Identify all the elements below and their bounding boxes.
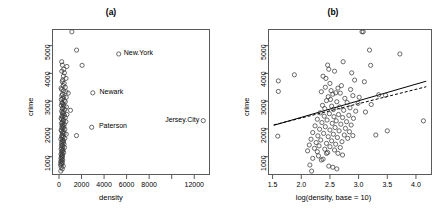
data-point [369,63,373,67]
data-point [311,156,315,160]
data-point [337,129,341,133]
point-annotation: Newark [99,88,123,95]
data-point [385,129,389,133]
data-point [336,151,340,155]
data-point [328,145,332,149]
y-tick-label: 2000 [44,127,51,143]
data-point [335,135,339,139]
data-point [354,109,358,113]
data-point [323,125,327,129]
data-point [362,80,366,84]
data-point [322,131,326,135]
data-point [341,60,345,64]
data-point [319,90,323,94]
data-point [398,52,402,56]
panel-a: (a) crime density 0200040006000800012000… [0,0,222,217]
data-point [308,163,312,167]
y-tick-label: 5000 [260,44,267,60]
data-point [292,73,296,77]
data-point [309,137,313,141]
data-point [315,117,319,121]
data-point [334,119,338,123]
data-point [327,112,331,116]
panel-b: (b) crime log(density, base = 10) 1.52.0… [222,0,444,217]
data-point [327,67,331,71]
data-point [336,86,340,90]
data-point [339,122,343,126]
data-point [276,134,280,138]
data-point [335,100,339,104]
data-point [333,125,337,129]
panel-a-y-axis-label: crime [26,98,35,116]
data-point [357,95,361,99]
data-point [349,123,353,127]
data-point [315,150,319,154]
data-point [331,132,335,136]
data-point [317,144,321,148]
data-point [338,91,342,95]
data-point [307,143,311,147]
y-tick-label: 2000 [260,127,267,143]
y-tick-label: 4000 [44,72,51,88]
data-point [321,74,325,78]
data-point [347,130,351,134]
point-annotation: Jersey.City [165,116,199,123]
data-point [316,154,320,158]
data-point [324,99,328,103]
data-point [322,114,326,118]
data-point [342,133,346,137]
x-tick-label: 4.0 [396,181,436,188]
data-point [343,96,347,100]
data-point [324,151,328,155]
data-point [74,48,78,52]
data-point [332,148,336,152]
panel-b-x-axis-label: log(density, base = 10) [222,193,445,202]
y-tick-label: 4000 [260,72,267,88]
data-point [68,108,72,112]
data-point [340,153,344,157]
data-point [328,81,332,85]
data-point [323,85,327,89]
data-point [326,63,330,67]
data-point [338,145,342,149]
data-point [369,102,373,106]
x-tick-label: 12000 [174,181,214,188]
data-point [328,97,332,101]
data-point [332,69,336,73]
data-point [325,118,329,122]
data-point [348,87,352,91]
data-point [74,133,78,137]
y-tick-label: 3000 [44,100,51,116]
data-point [276,79,280,83]
y-tick-label: 1000 [260,155,267,171]
data-point [201,118,205,122]
data-point [91,91,95,95]
data-point [327,164,331,168]
data-point [319,138,323,142]
point-annotation: New.York [124,49,153,56]
data-point [318,127,322,131]
data-point [65,64,69,68]
data-point [342,108,346,112]
data-point [421,119,425,123]
panel-a-x-axis-label: density [0,193,222,202]
data-point [351,116,355,120]
data-point [363,110,367,114]
data-point [320,120,324,124]
data-point [332,115,336,119]
data-point [331,165,335,169]
point-annotation: Paterson [99,122,127,129]
data-point [324,141,328,145]
data-point [305,149,309,153]
data-point [80,63,84,67]
data-point [70,30,74,34]
data-point [328,128,332,132]
data-point [330,139,334,143]
data-point [347,113,351,117]
data-point [340,140,344,144]
data-point [309,169,313,173]
data-point [340,115,344,119]
data-point [316,134,320,138]
x-tick-label: 8000 [129,181,169,188]
data-point [311,130,315,134]
